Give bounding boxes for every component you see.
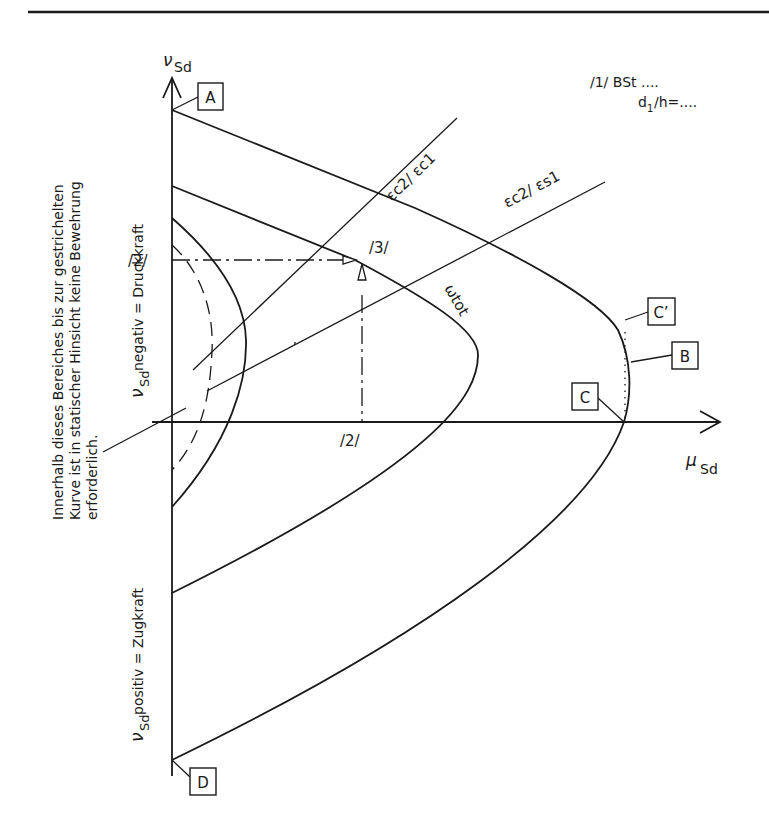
negative-label: ν Sd negativ = Druckkraft (127, 223, 152, 398)
y-axis-label: ν Sd (163, 50, 192, 75)
svg-text:A: A (205, 89, 216, 107)
point-D: D (172, 760, 216, 795)
svg-text:D: D (197, 774, 209, 792)
svg-text:Kurve ist in statischer Hinsic: Kurve ist in statischer Hinsicht keine B… (67, 181, 83, 520)
ref3-marker: /3/ (369, 239, 390, 257)
legend: /1/ BSt .... d 1 /h=.... (590, 74, 697, 114)
svg-text:ν: ν (127, 732, 147, 742)
ec2-es1-line (207, 182, 605, 391)
ec2-ec1-line (193, 118, 457, 370)
svg-text:Sd: Sd (174, 59, 192, 75)
y-axis (163, 78, 181, 776)
ec2-ec1-label: εc2/ εc1 (382, 149, 439, 205)
omega-tot-curve (172, 186, 478, 593)
svg-text:Innerhalb dieses Bereiches bis: Innerhalb dieses Bereiches bis zur gestr… (50, 184, 66, 520)
svg-text:C’: C’ (653, 304, 668, 322)
svg-text:ν: ν (127, 388, 147, 398)
svg-text:erforderlich.: erforderlich. (84, 435, 100, 520)
point-C: C (572, 383, 624, 422)
point-C-prime: C’ (625, 298, 675, 325)
ref2-x-marker: /2/ (340, 432, 361, 450)
svg-text:negativ = Druckkraft: negativ = Druckkraft (130, 223, 146, 371)
inner-curve (172, 218, 246, 507)
point-B: B (631, 342, 698, 369)
note-leader-line (103, 408, 186, 452)
svg-text:Sd: Sd (137, 370, 152, 387)
svg-text:1: 1 (647, 103, 653, 114)
interaction-diagram: A C’ B C D ν Sd μ Sd /1/ BSt .... d 1 /h… (0, 0, 769, 825)
outer-curve (172, 110, 629, 760)
svg-text:ν: ν (163, 50, 173, 70)
svg-text:d: d (638, 94, 647, 110)
positive-label: ν Sd positiv = Zugkraft (127, 588, 152, 742)
svg-text:positiv = Zugkraft: positiv = Zugkraft (130, 588, 146, 715)
svg-text:C: C (580, 389, 590, 407)
svg-text:B: B (680, 348, 690, 366)
svg-text:Sd: Sd (700, 461, 718, 477)
arrow-up-icon (358, 264, 366, 280)
x-axis-label: μ Sd (685, 450, 718, 477)
ec2-es1-label: εc2/ εs1 (500, 167, 562, 212)
svg-text:/1/ BSt ....: /1/ BSt .... (590, 74, 659, 90)
svg-text:Sd: Sd (137, 714, 152, 731)
no-reinforcement-note: Innerhalb dieses Bereiches bis zur gestr… (50, 181, 100, 520)
svg-text:μ: μ (685, 450, 697, 470)
svg-text:/h=....: /h=.... (654, 94, 697, 110)
